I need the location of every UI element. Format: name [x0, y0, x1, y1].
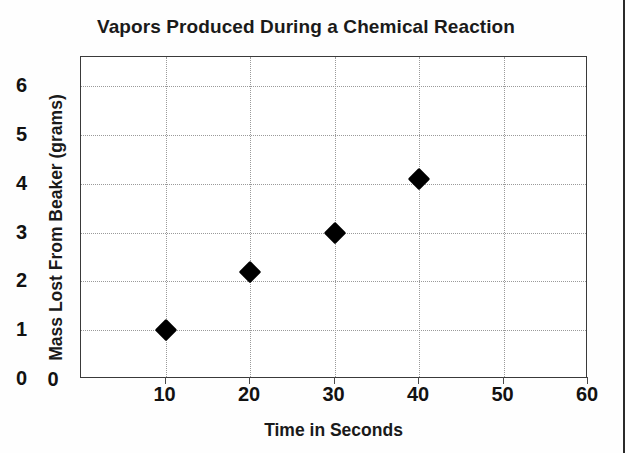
data-point-marker	[323, 221, 346, 244]
x-axis-tick-label: 10	[138, 384, 192, 404]
data-point-marker	[154, 319, 177, 342]
gridline-vertical	[504, 57, 505, 377]
x-axis-tick-mark	[587, 377, 588, 384]
plot-area	[80, 56, 587, 378]
chart-title: Vapors Produced During a Chemical Reacti…	[0, 16, 612, 38]
x-axis-tick-label: 30	[307, 384, 361, 404]
x-axis-tick-mark	[503, 377, 504, 384]
data-point-marker	[239, 260, 262, 283]
y-axis-tick-label: 5	[0, 124, 27, 144]
chart-figure: Vapors Produced During a Chemical Reacti…	[0, 0, 625, 453]
y-axis-tick-label: 3	[0, 222, 27, 242]
gridline-horizontal	[81, 281, 586, 282]
y-axis-tick-label: 0	[0, 368, 27, 388]
y-axis-tick-label: 6	[0, 75, 27, 95]
x-axis-tick-mark	[334, 377, 335, 384]
y-axis-tick-label: 1	[0, 319, 27, 339]
gridline-vertical	[335, 57, 336, 377]
data-point-marker	[408, 168, 431, 191]
gridline-horizontal	[81, 184, 586, 185]
gridline-vertical	[419, 57, 420, 377]
x-axis-tick-label: 0	[26, 369, 80, 389]
x-axis-title: Time in Seconds	[80, 420, 587, 441]
x-axis-tick-label: 20	[222, 384, 276, 404]
gridline-horizontal	[81, 135, 586, 136]
x-axis-tick-label: 40	[391, 384, 445, 404]
x-axis-tick-mark	[165, 377, 166, 384]
y-axis-tick-label: 2	[0, 270, 27, 290]
x-axis-tick-mark	[418, 377, 419, 384]
gridline-vertical	[250, 57, 251, 377]
x-axis-tick-label: 60	[560, 384, 614, 404]
x-axis-tick-mark	[249, 377, 250, 384]
y-axis-tick-label: 4	[0, 173, 27, 193]
x-axis-tick-label: 50	[476, 384, 530, 404]
y-axis-title: Mass Lost From Beaker (grams)	[46, 68, 67, 388]
gridline-horizontal	[81, 86, 586, 87]
